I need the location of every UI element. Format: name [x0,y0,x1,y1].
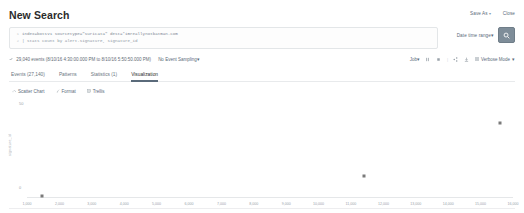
trellis-label: Trellis [93,89,105,94]
x-axis-tick: 12,000 [378,202,389,206]
search-submit-button[interactable] [498,27,515,43]
chevron-down-icon: ▾ [417,57,420,62]
header: New Search Save As▾ Close [0,0,524,21]
date-range-label: Date time range [457,33,491,38]
job-controls: Job▾ | Verbose Mode▾ [410,56,515,62]
job-menu-button[interactable]: Job▾ [410,57,420,62]
page-title: New Search [9,9,70,21]
trellis-button[interactable]: Trellis [87,89,105,94]
search-mode-label: Verbose Mode [481,57,510,62]
x-axis-tick: 15,000 [475,202,486,206]
job-label: Job [410,57,417,62]
x-axis-tick: 5,000 [152,202,161,206]
grid-icon [475,57,479,62]
x-axis-tick: 9,000 [282,202,291,206]
x-axis-tick: 1,000 [23,202,32,206]
pause-icon[interactable] [425,56,431,62]
chart-corner-label: 50 [19,101,23,106]
search-controls: Date time range▾ [457,27,515,43]
search-app: New Search Save As▾ Close 1 index=botsv1… [0,0,524,213]
data-point[interactable] [499,121,502,124]
export-icon[interactable] [464,56,470,62]
chart-type-selector[interactable]: Scatter Chart [12,89,45,94]
chevron-down-icon: ▾ [197,57,200,62]
grid-icon [87,89,91,94]
chevron-down-icon: ▾ [489,11,491,16]
x-axis-tick: 10,000 [313,202,324,206]
query-line-1: 1 index=botsv1 sourcetype="suricata" des… [14,31,433,38]
x-axis-tick: 8,000 [249,202,258,206]
visualization-toolbar: Scatter Chart Format Trellis [9,87,515,96]
x-axis-tick: 3,000 [87,202,96,206]
query-line-2-text: | stats count by alert.signature, signat… [22,38,138,45]
x-axis-tick: 2,000 [55,202,64,206]
save-as-label: Save As [470,11,488,16]
event-sampling-label: No Event Sampling [158,57,197,62]
format-label: Format [62,89,76,94]
results-summary: 29,040 events (8/10/16 4:30:00.000 PM to… [9,57,200,62]
search-input[interactable]: 1 index=botsv1 sourcetype="suricata" des… [9,27,438,49]
scatter-chart: 50 signature_id 0 1,0002,0003,0004,0005,… [9,100,515,213]
tab-events[interactable]: Events (27,140) [11,72,45,82]
data-point[interactable] [40,194,43,197]
paintbrush-icon [56,89,60,94]
save-as-button[interactable]: Save As▾ [470,11,491,16]
footer-divider [9,208,515,209]
query-line-2: 2 | stats count by alert.signature, sign… [14,38,433,45]
search-area: 1 index=botsv1 sourcetype="suricata" des… [9,27,515,49]
x-axis-tick: 14,000 [443,202,454,206]
x-axis-tick: 16,000 [508,202,519,206]
check-icon [9,57,13,61]
results-tabs: Events (27,140) Patterns Statistics (1) … [9,69,515,82]
x-axis-tick: 4,000 [120,202,129,206]
tab-patterns[interactable]: Patterns [59,72,77,82]
tab-visualization[interactable]: Visualization [131,72,158,82]
data-point[interactable] [362,175,365,178]
chevron-down-icon: ▾ [512,57,515,62]
x-axis-tick: 6,000 [184,202,193,206]
y-axis-label: signature_id [8,134,12,156]
line-number-1: 1 [14,31,19,38]
results-meta-row: 29,040 events (8/10/16 4:30:00.000 PM to… [9,54,515,64]
header-actions: Save As▾ Close [470,9,515,16]
event-sampling-selector[interactable]: No Event Sampling▾ [158,57,200,62]
x-axis-tick: 7,000 [217,202,226,206]
event-count-text: 29,040 events (8/10/16 4:30:00.000 PM to… [9,57,151,62]
x-axis-tick: 13,000 [410,202,421,206]
close-button[interactable]: Close [503,11,515,16]
chevron-down-icon: ▾ [491,33,494,38]
toolbar-divider: | [447,57,448,62]
format-button[interactable]: Format [56,89,76,94]
share-icon[interactable] [453,56,459,62]
chart-icon [12,89,16,94]
search-icon [503,32,510,39]
plot-area [27,108,513,198]
stop-icon[interactable] [436,56,442,62]
chart-type-label: Scatter Chart [18,89,45,94]
line-number-2: 2 [14,38,19,45]
query-line-1-text: index=botsv1 sourcetype="suricata" dest=… [22,31,178,38]
tab-statistics[interactable]: Statistics (1) [91,72,117,82]
search-mode-selector[interactable]: Verbose Mode▾ [475,57,515,62]
x-axis-tick: 11,000 [346,202,357,206]
y-axis-tick: 0 [19,186,21,190]
date-range-picker[interactable]: Date time range▾ [457,33,494,38]
